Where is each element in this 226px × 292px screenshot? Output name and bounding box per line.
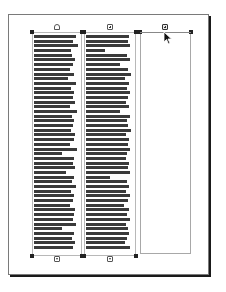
out-port-threaded-icon[interactable] <box>107 256 113 262</box>
text-line <box>86 91 130 94</box>
text-line <box>86 138 129 141</box>
text-line <box>34 185 76 188</box>
text-line <box>86 241 125 244</box>
text-line <box>86 213 127 216</box>
text-line <box>34 223 76 226</box>
text-line <box>86 77 125 80</box>
text-line <box>86 73 131 76</box>
text-line <box>34 190 71 193</box>
text-line <box>86 54 127 57</box>
text-line <box>34 213 74 216</box>
text-line <box>34 176 74 179</box>
in-port-icon[interactable] <box>54 24 60 30</box>
text-line <box>86 176 110 179</box>
text-line <box>86 246 130 249</box>
text-line <box>34 180 72 183</box>
out-port-threaded-icon[interactable] <box>54 256 60 262</box>
text-line <box>34 199 73 202</box>
text-line <box>34 148 77 151</box>
text-line <box>86 152 127 155</box>
resize-handle-bottom-right[interactable] <box>134 254 138 258</box>
text-line <box>86 35 129 38</box>
text-line <box>86 171 130 174</box>
text-line <box>86 63 120 66</box>
text-line <box>86 148 130 151</box>
in-port-active-icon[interactable] <box>162 24 168 30</box>
text-line <box>34 68 70 71</box>
text-line <box>86 162 129 165</box>
text-line <box>34 40 73 43</box>
text-line <box>86 133 126 136</box>
text-line <box>34 82 76 85</box>
text-line <box>86 44 130 47</box>
text-line <box>34 171 66 174</box>
text-line <box>86 68 128 71</box>
text-line <box>86 96 128 99</box>
text-line <box>86 143 128 146</box>
text-line <box>86 166 128 169</box>
text-line <box>86 110 120 113</box>
text-line <box>34 115 72 118</box>
text-line <box>86 49 105 52</box>
text-line <box>34 166 75 169</box>
text-line <box>34 91 74 94</box>
text-line <box>34 73 74 76</box>
text-line <box>86 119 127 122</box>
page <box>8 14 209 275</box>
text-line <box>34 138 74 141</box>
text-line <box>86 223 126 226</box>
text-line <box>86 180 127 183</box>
text-line <box>86 101 126 104</box>
text-line <box>34 101 75 104</box>
text-line <box>34 119 74 122</box>
text-line <box>86 199 128 202</box>
frame-outline <box>140 32 191 254</box>
resize-handle-bottom-left[interactable] <box>30 254 34 258</box>
text-line <box>86 237 127 240</box>
text-line <box>86 185 129 188</box>
text-line <box>86 40 128 43</box>
text-line <box>34 218 73 221</box>
text-line <box>86 87 127 90</box>
text-line <box>86 82 129 85</box>
text-line <box>34 129 71 132</box>
resize-handle-top-left[interactable] <box>82 30 86 34</box>
text-line <box>34 232 74 235</box>
text-frame-1[interactable] <box>32 32 82 256</box>
text-line <box>34 204 70 207</box>
text-line <box>86 218 130 221</box>
text-line <box>34 241 75 244</box>
text-line <box>86 190 126 193</box>
text-lines <box>86 35 134 251</box>
text-line <box>34 77 68 80</box>
text-line <box>86 232 129 235</box>
text-frame-2[interactable] <box>84 32 136 256</box>
text-frame-3[interactable] <box>140 32 191 254</box>
text-line <box>34 133 75 136</box>
text-line <box>34 157 74 160</box>
text-line <box>86 58 130 61</box>
text-line <box>34 162 73 165</box>
text-line <box>34 227 62 230</box>
text-line <box>34 44 78 47</box>
text-line <box>86 227 128 230</box>
text-line <box>86 124 128 127</box>
text-line <box>34 152 62 155</box>
text-line <box>86 157 126 160</box>
text-line <box>34 143 70 146</box>
text-line <box>34 54 72 57</box>
text-line <box>34 105 70 108</box>
text-lines <box>34 35 80 251</box>
text-line <box>86 204 124 207</box>
text-line <box>86 129 131 132</box>
text-line <box>34 208 75 211</box>
text-line <box>34 110 77 113</box>
text-line <box>34 35 76 38</box>
resize-handle-bottom-left[interactable] <box>82 254 86 258</box>
resize-handle-top-left[interactable] <box>30 30 34 34</box>
in-port-threaded-icon[interactable] <box>107 24 113 30</box>
text-line <box>34 49 71 52</box>
text-line <box>34 124 73 127</box>
text-line <box>34 194 74 197</box>
text-line <box>34 63 73 66</box>
